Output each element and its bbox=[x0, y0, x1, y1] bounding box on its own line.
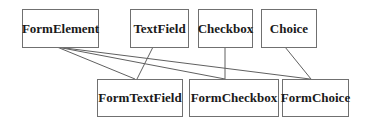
node-formelement: FormElement bbox=[22, 9, 99, 48]
node-formchoice: FormChoice bbox=[282, 79, 349, 117]
node-label: FormCheckbox bbox=[191, 90, 278, 106]
edge-formelement-formcheckbox bbox=[57, 47, 225, 79]
node-label: TextField bbox=[133, 21, 185, 37]
node-formtextfield: FormTextField bbox=[97, 79, 183, 117]
node-label: FormChoice bbox=[281, 90, 350, 106]
node-label: Checkbox bbox=[198, 21, 254, 37]
node-choice: Choice bbox=[261, 9, 317, 48]
node-label: FormTextField bbox=[98, 90, 181, 106]
node-checkbox: Checkbox bbox=[198, 9, 253, 48]
node-label: FormElement bbox=[22, 21, 99, 37]
node-label: Choice bbox=[270, 21, 308, 37]
node-formcheckbox: FormCheckbox bbox=[189, 79, 279, 117]
edge-choice-formchoice bbox=[285, 47, 311, 79]
node-textfield: TextField bbox=[130, 9, 189, 48]
